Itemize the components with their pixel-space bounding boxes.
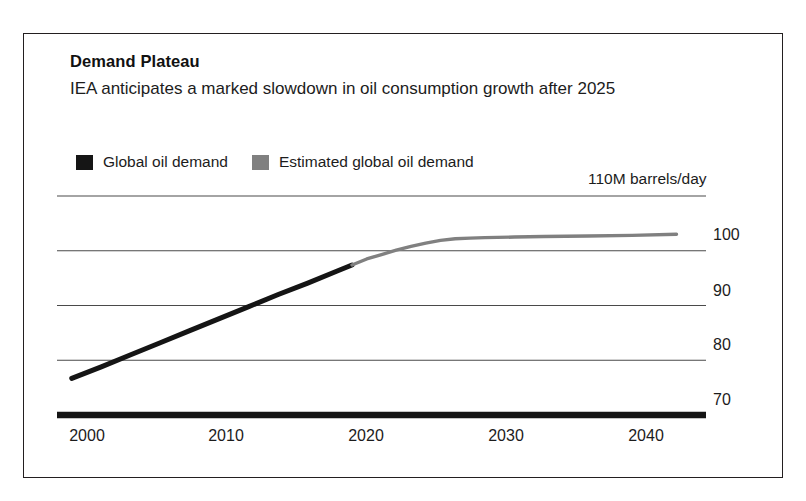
y-tick-label-70: 70 — [713, 391, 731, 409]
legend-label-actual: Global oil demand — [103, 154, 228, 170]
legend-item-global-oil-demand: Global oil demand — [76, 154, 228, 170]
y-tick-label-100: 100 — [713, 226, 740, 244]
x-tick-label-2000: 2000 — [69, 427, 105, 445]
y-tick-label-90: 90 — [713, 282, 731, 300]
y-axis-unit-label: 110M barrels/day — [588, 170, 707, 188]
legend-label-estimated: Estimated global oil demand — [279, 154, 474, 170]
chart-subtitle: IEA anticipates a marked slowdown in oil… — [70, 79, 615, 99]
x-tick-label-2030: 2030 — [488, 427, 524, 445]
page-title: Demand Plateau — [70, 52, 200, 71]
legend-item-estimated-global-oil-demand: Estimated global oil demand — [252, 154, 474, 170]
y-tick-label-80: 80 — [713, 336, 731, 354]
x-tick-label-2040: 2040 — [628, 427, 664, 445]
figure-root: Demand Plateau IEA anticipates a marked … — [0, 0, 806, 501]
chart-frame — [23, 33, 783, 478]
x-tick-label-2020: 2020 — [348, 427, 384, 445]
x-tick-label-2010: 2010 — [208, 427, 244, 445]
chart-legend: Global oil demand Estimated global oil d… — [76, 152, 474, 172]
legend-swatch-actual-icon — [76, 155, 93, 170]
legend-swatch-estimated-icon — [252, 155, 269, 170]
